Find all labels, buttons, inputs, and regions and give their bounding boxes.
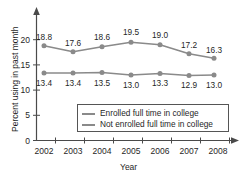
point-label-not-enrolled-2006: 13.3 (147, 79, 173, 87)
y-tick-label-15: 15 (12, 61, 30, 70)
point-label-not-enrolled-2003: 13.4 (60, 79, 86, 87)
point-label-enrolled-2005: 19.5 (118, 28, 144, 36)
point-label-enrolled-2006: 19.0 (147, 31, 173, 39)
point-label-enrolled-2002: 18.8 (31, 33, 57, 41)
point-label-not-enrolled-2004: 13.5 (89, 79, 115, 87)
x-axis-title: Year (120, 163, 137, 172)
legend-item-enrolled: Enrolled full time in college (82, 108, 224, 119)
y-tick-label-0: 0 (12, 137, 30, 146)
y-axis-arrowhead (33, 7, 40, 15)
x-tick-label-2002: 2002 (29, 147, 59, 156)
legend-label-enrolled: Enrolled full time in college (100, 109, 199, 117)
x-tick-label-2007: 2007 (174, 147, 204, 156)
legend-item-not-enrolled: Not enrolled full time in college (82, 119, 224, 130)
series-markers-not-enrolled (42, 70, 217, 78)
x-tick-label-2006: 2006 (145, 147, 175, 156)
chart-legend: Enrolled full time in college Not enroll… (77, 104, 229, 132)
y-tick-label-10: 10 (12, 86, 30, 95)
point-label-enrolled-2003: 17.6 (60, 39, 86, 47)
x-tick-label-2005: 2005 (116, 147, 146, 156)
x-axis-arrowhead (231, 137, 239, 144)
legend-label-not-enrolled: Not enrolled full time in college (100, 120, 213, 128)
point-label-not-enrolled-2005: 13.0 (118, 81, 144, 89)
x-tick-label-2003: 2003 (58, 147, 88, 156)
point-label-not-enrolled-2008: 13.0 (201, 81, 227, 89)
legend-line-swatch-icon (82, 113, 95, 115)
x-tick-label-2004: 2004 (87, 147, 117, 156)
point-label-enrolled-2008: 16.3 (201, 46, 227, 54)
y-tick-label-20: 20 (12, 36, 30, 45)
x-tick-label-2008: 2008 (203, 147, 233, 156)
line-chart: Percent using in past month 0 5 10 15 20… (0, 0, 247, 177)
point-label-enrolled-2007: 17.2 (176, 41, 202, 49)
point-label-not-enrolled-2007: 12.9 (176, 81, 202, 89)
point-label-not-enrolled-2002: 13.4 (31, 79, 57, 87)
point-label-enrolled-2004: 18.6 (89, 33, 115, 41)
legend-line-swatch-icon (82, 124, 95, 126)
y-tick-label-5: 5 (12, 111, 30, 120)
